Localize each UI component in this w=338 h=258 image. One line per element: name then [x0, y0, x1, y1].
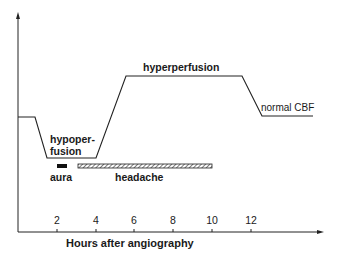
cbf-diagram [0, 0, 338, 258]
hyperperfusion-label: hyperperfusion [143, 61, 219, 73]
x-axis [18, 229, 324, 234]
hypoperfusion-label-line2: fusion [50, 145, 95, 157]
x-tick-4: 4 [93, 214, 99, 226]
x-tick-12: 12 [245, 214, 257, 226]
hypoperfusion-label-line1: hypoper- [50, 133, 95, 145]
aura-label: aura [50, 171, 72, 183]
y-axis [16, 12, 20, 232]
headache-bar [78, 164, 212, 168]
hypoperfusion-label: hypoper- fusion [50, 133, 95, 157]
headache-label: headache [115, 171, 163, 183]
x-tick-8: 8 [170, 214, 176, 226]
aura-bar [57, 164, 67, 168]
x-tick-6: 6 [131, 214, 137, 226]
normal-cbf-label: normal CBF [261, 102, 314, 114]
x-axis-label: Hours after angiography [66, 237, 194, 249]
x-tick-10: 10 [206, 214, 218, 226]
x-tick-2: 2 [54, 214, 60, 226]
